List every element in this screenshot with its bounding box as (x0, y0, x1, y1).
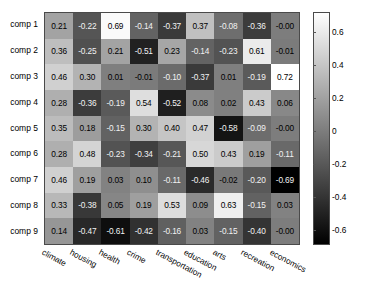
heatmap-cell: -0.14 (186, 39, 214, 65)
heatmap-cell: 0.46 (45, 167, 73, 193)
heatmap-cell: 0.21 (45, 13, 73, 39)
heatmap-cell-value: 0.19 (136, 200, 152, 210)
heatmap-cell-value: -0.15 (106, 123, 124, 133)
heatmap-cell: 0.01 (214, 64, 242, 90)
heatmap-cell: 0.30 (130, 116, 158, 142)
heatmap-cell-value: 0.03 (192, 226, 208, 236)
heatmap-cell-value: -0.14 (135, 21, 153, 31)
heatmap-cell: -0.01 (271, 39, 299, 65)
heatmap-cell-value: 0.72 (277, 72, 293, 82)
heatmap-cell: 0.30 (73, 64, 101, 90)
y-axis-label-1: comp 1 (10, 12, 38, 38)
heatmap-cell: -0.01 (130, 64, 158, 90)
heatmap-cell-value: 0.10 (136, 175, 152, 185)
heatmap-cell-value: 0.47 (192, 123, 208, 133)
heatmap-cell-value: -0.00 (276, 21, 294, 31)
heatmap-cell-value: -0.46 (191, 175, 209, 185)
heatmap-cell-value: 0.30 (136, 123, 152, 133)
heatmap-cell-value: 0.02 (221, 98, 237, 108)
heatmap-cell-value: -0.10 (163, 72, 181, 82)
heatmap-cell-value: 0.28 (51, 149, 67, 159)
heatmap-cell-value: 0.63 (221, 200, 237, 210)
heatmap-cell-value: 0.48 (80, 149, 96, 159)
heatmap-cell: 0.21 (101, 39, 129, 65)
colorbar-tick-mark-0 (313, 32, 316, 33)
heatmap-cell-value: 0.14 (51, 226, 67, 236)
heatmap-cell: 0.47 (186, 116, 214, 142)
heatmap-cell: 0.36 (45, 39, 73, 65)
y-axis-label-9: comp 9 (10, 219, 38, 245)
heatmap-cell: 0.50 (186, 141, 214, 167)
heatmap-cell-value: 0.69 (108, 21, 124, 31)
heatmap-cell-value: 0.09 (192, 200, 208, 210)
heatmap-cell-value: 0.19 (80, 175, 96, 185)
heatmap-cell: -0.09 (243, 116, 271, 142)
heatmap-cell: -0.51 (130, 39, 158, 65)
heatmap-cell-value: 0.18 (80, 123, 96, 133)
heatmap-cell-value: 0.01 (221, 72, 237, 82)
y-axis-label-3: comp 3 (10, 64, 38, 90)
heatmap-cell: -0.00 (271, 116, 299, 142)
heatmap-cell: -0.38 (73, 193, 101, 219)
y-axis-label-2: comp 2 (10, 38, 38, 64)
heatmap-cell: 0.53 (158, 193, 186, 219)
heatmap-cell: 0.43 (243, 90, 271, 116)
heatmap-cell-value: -0.21 (163, 149, 181, 159)
heatmap-cell-value: -0.22 (78, 21, 96, 31)
heatmap-cell: 0.46 (45, 64, 73, 90)
heatmap-cell: -0.61 (101, 218, 129, 244)
heatmap-cell-value: 0.54 (136, 98, 152, 108)
heatmap-cell: 0.33 (45, 193, 73, 219)
heatmap-cell-value: -0.20 (248, 175, 266, 185)
heatmap-cell-value: 0.01 (108, 72, 124, 82)
heatmap-cell-value: 0.03 (277, 200, 293, 210)
y-axis-label-4: comp 4 (10, 90, 38, 116)
heatmap-cell: 0.69 (101, 13, 129, 39)
heatmap-cell-value: -0.15 (219, 226, 237, 236)
heatmap-cell-value: 0.40 (164, 123, 180, 133)
heatmap-cell-value: -0.15 (248, 200, 266, 210)
heatmap-cell: -0.10 (158, 64, 186, 90)
heatmap-cell-value: 0.06 (277, 98, 293, 108)
x-axis-label-3: health (97, 247, 122, 266)
heatmap-cell-value: 0.05 (108, 200, 124, 210)
heatmap-cell: 0.19 (243, 141, 271, 167)
heatmap-cell-value: -0.00 (276, 226, 294, 236)
heatmap-cell: 0.01 (101, 64, 129, 90)
colorbar-tick-label-3: 0 (332, 126, 337, 136)
colorbar-tick-mark-2 (313, 98, 316, 99)
heatmap-cell: -0.69 (271, 167, 299, 193)
y-axis-label-7: comp 7 (10, 167, 38, 193)
heatmap-cell: -0.47 (73, 218, 101, 244)
heatmap-cell: 0.43 (214, 141, 242, 167)
heatmap-cell-value: -0.37 (163, 21, 181, 31)
heatmap-cell: 0.48 (73, 141, 101, 167)
heatmap-cell-value: 0.61 (249, 46, 265, 56)
heatmap-cell: -0.00 (271, 218, 299, 244)
colorbar-tick-mark-5 (313, 197, 316, 198)
heatmap-cell-value: 0.03 (108, 175, 124, 185)
x-axis-labels: climatehousinghealthcrimetransportatione… (44, 245, 300, 301)
heatmap-cell-value: -0.61 (106, 226, 124, 236)
heatmap-figure: comp 1comp 2comp 3comp 4comp 5comp 6comp… (0, 0, 378, 301)
heatmap-cell: 0.14 (45, 218, 73, 244)
heatmap-cell: -0.14 (130, 13, 158, 39)
heatmap-cell: -0.23 (101, 141, 129, 167)
x-axis-label-9: economics (268, 247, 308, 274)
heatmap-grid: 0.21-0.220.69-0.14-0.370.37-0.08-0.36-0.… (44, 12, 300, 245)
heatmap-cell-value: -0.19 (248, 72, 266, 82)
heatmap-cell: -0.52 (158, 90, 186, 116)
heatmap-cell-value: -0.36 (78, 98, 96, 108)
heatmap-cell: -0.37 (158, 13, 186, 39)
heatmap-cell: -0.36 (243, 13, 271, 39)
heatmap-cell: 0.08 (186, 90, 214, 116)
heatmap-cell: 0.28 (45, 90, 73, 116)
heatmap-cell: -0.02 (214, 167, 242, 193)
heatmap-cell-value: -0.14 (191, 46, 209, 56)
heatmap-cell-value: -0.23 (219, 46, 237, 56)
heatmap-cell: -0.19 (101, 90, 129, 116)
heatmap-cell: 0.19 (73, 167, 101, 193)
heatmap-cell: 0.18 (73, 116, 101, 142)
heatmap-cell-value: 0.36 (51, 46, 67, 56)
colorbar-tick-label-5: -0.4 (332, 192, 346, 202)
